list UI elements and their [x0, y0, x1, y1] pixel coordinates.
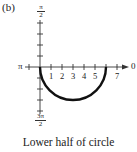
tick-label-4: 4	[82, 72, 86, 81]
tick-label-1: 1	[49, 72, 53, 81]
tick-label-2: 2	[60, 72, 64, 81]
tick-label-7: 7	[115, 72, 119, 81]
tick-label-5: 5	[93, 72, 97, 81]
label-three-pi-over-2: 3π 2	[35, 113, 46, 128]
axis-arrow-icon	[122, 65, 129, 70]
label-pi: π	[18, 62, 23, 71]
tick-label-3: 3	[71, 72, 75, 81]
label-zero: 0	[131, 62, 136, 71]
caption: Lower half of circle	[0, 136, 137, 148]
label-pi-over-2: π 2	[37, 4, 45, 19]
